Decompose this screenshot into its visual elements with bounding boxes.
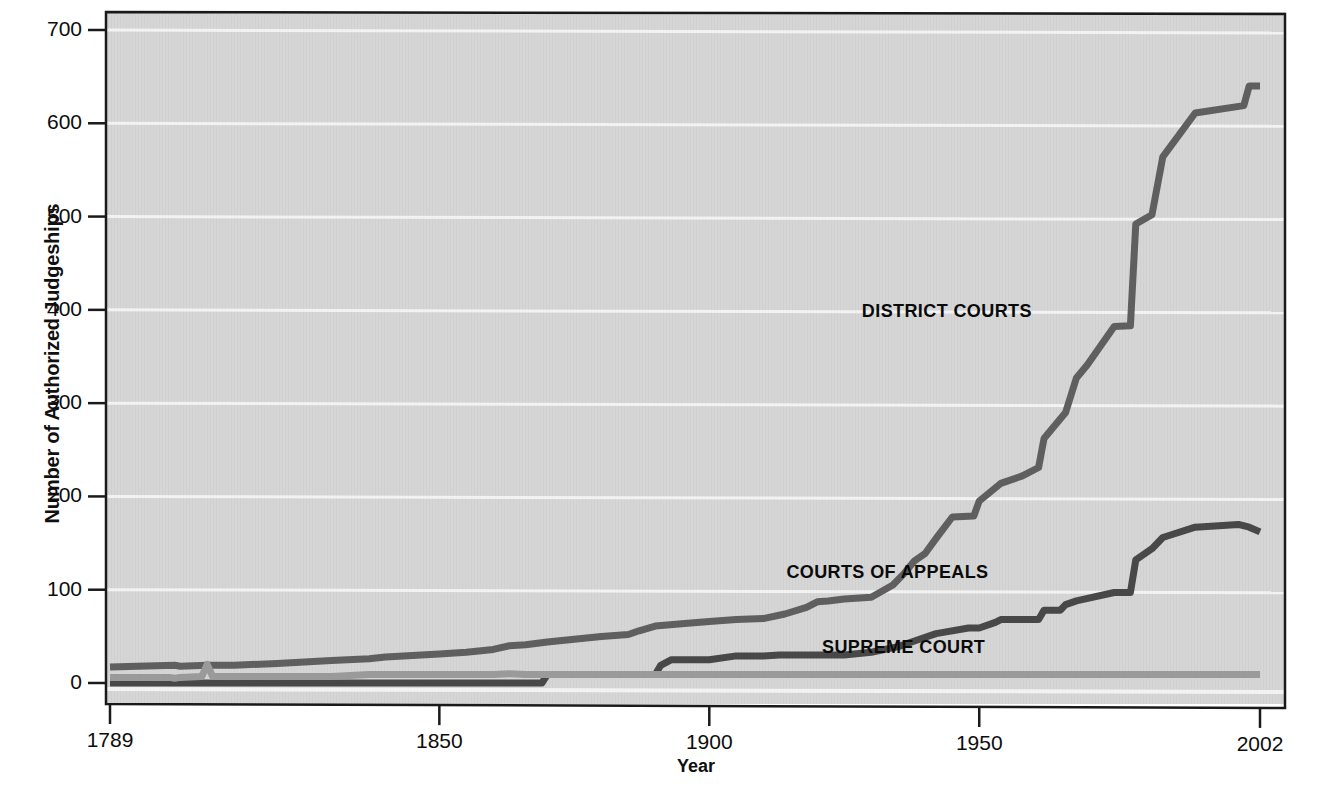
x-axis-title: Year <box>106 756 1286 777</box>
x-tick-label-2002: 2002 <box>1237 732 1284 756</box>
judgeships-line-chart: Number of Authorized Judgeships 01002003… <box>0 0 1324 789</box>
x-tick-label-1950: 1950 <box>956 731 1003 755</box>
series-label-supreme-court: SUPREME COURT <box>822 637 985 658</box>
x-tick-label-1900: 1900 <box>686 730 733 754</box>
series-label-district-courts: DISTRICT COURTS <box>862 301 1032 322</box>
x-tick-label-1850: 1850 <box>416 729 463 753</box>
series-label-courts-of-appeals: COURTS OF APPEALS <box>786 562 988 583</box>
x-tick-label-1789: 1789 <box>87 728 134 752</box>
plot-area <box>0 0 1324 789</box>
